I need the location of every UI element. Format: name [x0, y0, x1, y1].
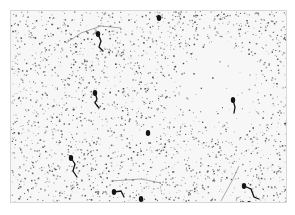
sperm-cell — [139, 196, 143, 202]
micrograph-image — [10, 10, 287, 203]
sperm-cell — [112, 189, 124, 197]
sperm-cell — [231, 97, 235, 113]
sperm-cell — [157, 15, 161, 21]
sperm-cell — [93, 90, 99, 108]
sperm-cell — [146, 130, 150, 136]
micrograph-canvas — [11, 11, 287, 203]
speckle-background — [11, 11, 287, 203]
sperm-cell — [96, 31, 103, 51]
sperm-cell — [247, 201, 251, 203]
sperm-cell — [69, 155, 77, 177]
